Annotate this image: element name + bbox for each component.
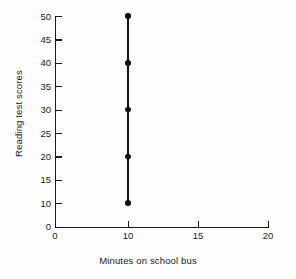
y-tick-45 [56, 39, 62, 40]
x-axis-title: Minutes on school bus [0, 255, 296, 266]
x-axis-line [55, 227, 269, 228]
y-axis-line [55, 16, 56, 228]
y-axis-title: Reading test scores [13, 44, 24, 184]
x-tick-label-0: 0 [40, 231, 70, 241]
y-tick-label-10: 10 [29, 199, 51, 209]
y-tick-label-40: 40 [29, 58, 51, 68]
data-point-30 [125, 107, 131, 113]
y-tick-label-30: 30 [29, 105, 51, 115]
chart-figure: 50 45 40 35 30 25 20 15 10 0 0 10 15 20 … [0, 0, 296, 279]
y-tick-label-15: 15 [29, 175, 51, 185]
y-tick-label-45: 45 [29, 35, 51, 45]
y-tick-50 [56, 16, 62, 17]
y-tick-label-20: 20 [29, 152, 51, 162]
x-tick-label-10: 10 [113, 231, 143, 241]
y-tick-label-25: 25 [29, 129, 51, 139]
y-tick-40 [56, 63, 62, 64]
y-tick-label-50: 50 [29, 12, 51, 22]
x-tick-10 [128, 221, 129, 227]
y-tick-label-35: 35 [29, 82, 51, 92]
y-tick-20 [56, 156, 62, 157]
y-tick-30 [56, 110, 62, 111]
y-tick-35 [56, 86, 62, 87]
y-tick-25 [56, 133, 62, 134]
y-tick-15 [56, 180, 62, 181]
x-tick-15 [198, 221, 199, 227]
x-tick-label-15: 15 [183, 231, 213, 241]
data-point-40 [125, 60, 131, 66]
data-point-20 [125, 154, 131, 160]
x-tick-20 [268, 221, 269, 227]
y-tick-10 [56, 203, 62, 204]
data-point-50 [125, 13, 131, 19]
x-tick-label-20: 20 [253, 231, 283, 241]
x-tick-0 [55, 221, 56, 227]
data-point-10 [125, 200, 131, 206]
